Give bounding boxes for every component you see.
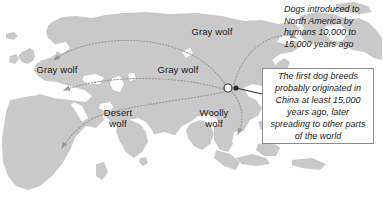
origin-callout-box: The first dog breeds probably originated… bbox=[262, 68, 374, 144]
callout-anchor-dot bbox=[233, 85, 238, 90]
origin-point-circle bbox=[224, 84, 232, 92]
origin-callout-text: The first dog breeds probably originated… bbox=[266, 70, 370, 142]
figure-root: Gray wolf Gray wolf Gray wolf Desert wol… bbox=[0, 0, 383, 198]
annotation-north-america: Dogs introduced to North America by huma… bbox=[284, 4, 382, 50]
